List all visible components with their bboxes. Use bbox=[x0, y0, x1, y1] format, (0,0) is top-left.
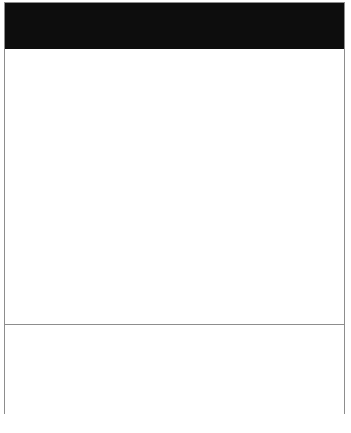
figure-container bbox=[4, 2, 345, 414]
chart-legend bbox=[5, 324, 344, 414]
stacked-area-chart bbox=[63, 67, 341, 310]
figure-title-bar bbox=[5, 3, 344, 49]
y-axis-labels bbox=[5, 49, 63, 322]
plot-area bbox=[63, 67, 341, 310]
chart-panel bbox=[5, 49, 344, 322]
